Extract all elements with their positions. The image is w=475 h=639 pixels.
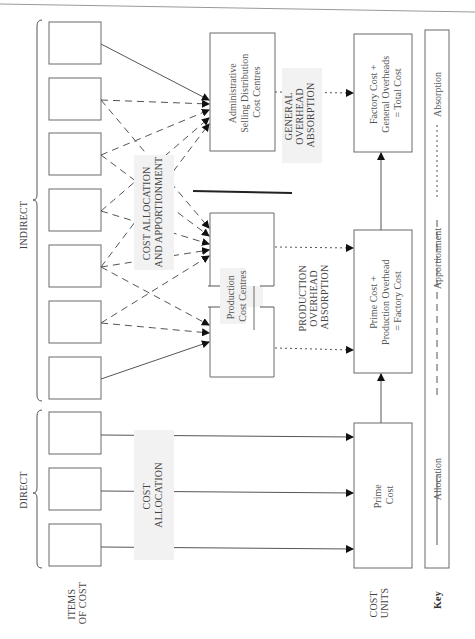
general-absorption-label: GENERAL OVERHEAD ABSORPTION bbox=[283, 83, 316, 148]
indirect-bracket bbox=[33, 20, 42, 401]
item-box bbox=[49, 524, 101, 566]
indirect-label: INDIRECT bbox=[18, 201, 29, 249]
item-box bbox=[49, 412, 101, 454]
item-boxes bbox=[49, 22, 101, 566]
centre-separator bbox=[193, 191, 292, 193]
item-box bbox=[49, 357, 101, 399]
key-label: Key bbox=[432, 591, 443, 609]
item-box bbox=[49, 78, 101, 120]
item-box bbox=[49, 189, 101, 231]
allocation-arrow bbox=[101, 342, 209, 379]
cost-allocation-apportionment-label: COST ALLOCATION AND APPORTIONMENT bbox=[141, 157, 164, 268]
direct-label: DIRECT bbox=[18, 471, 29, 508]
items-of-cost-label: ITEMS OF COST bbox=[66, 582, 88, 624]
item-box bbox=[49, 301, 101, 343]
allocation-arrow bbox=[101, 44, 209, 100]
cost-flow-diagram: INDIRECT DIRECT ITEMS OF COST Administra… bbox=[0, 0, 475, 639]
production-absorption-arrow bbox=[275, 247, 353, 248]
production-absorption-label: PRODUCTION OVERHEAD ABSORPTION bbox=[297, 262, 330, 331]
page-rule bbox=[0, 4, 475, 12]
production-cost-centre-label: Production Cost Centres bbox=[225, 270, 248, 321]
item-box bbox=[49, 245, 101, 287]
item-box bbox=[49, 468, 101, 510]
key-apportionment-label: Apportionment bbox=[432, 228, 443, 289]
item-box bbox=[49, 133, 101, 175]
key-allocation-label: Allocation bbox=[432, 458, 443, 500]
key-absorption-label: Absorption bbox=[432, 72, 443, 117]
cost-units-label: COST UNITS bbox=[368, 588, 390, 618]
direct-bracket bbox=[33, 410, 42, 568]
prime-cost-box bbox=[354, 423, 412, 568]
item-box bbox=[49, 22, 101, 64]
production-absorption-arrow bbox=[275, 348, 353, 350]
